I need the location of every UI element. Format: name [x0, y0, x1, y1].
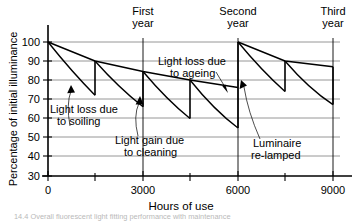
- y-tick-label-80: 80: [28, 74, 40, 86]
- annotation-leader-relamped: [244, 87, 260, 139]
- y-axis-title: Percentage of initial illuminance: [7, 32, 19, 187]
- annotation-soiling-line2: to soiling: [57, 115, 100, 127]
- annotation-relamped-line2: re-lamped: [251, 149, 301, 161]
- axes: [42, 25, 352, 176]
- period-label-third-line2: year: [322, 17, 344, 29]
- figure-container: 100 90 80 70 60 50 40 30 0 3000 6000 900…: [0, 0, 362, 222]
- x-tick-label-9000: 9000: [321, 184, 345, 196]
- annotation-cleaning-line1: Light gain due: [115, 134, 184, 146]
- annotation-ageing-line2: to ageing: [170, 67, 215, 79]
- annotation-relamped-line1: Luminaire: [253, 137, 301, 149]
- annotation-ageing-line1: Light loss due: [158, 55, 226, 67]
- arrowhead-icon-relamped: [240, 80, 247, 89]
- y-tick-labels: 100 90 80 70 60 50 40 30: [22, 36, 40, 182]
- period-label-second-line2: year: [227, 17, 249, 29]
- soiling-decay-cycle-6: [285, 61, 333, 105]
- annotation-light-loss-soiling: Light loss due to soiling: [50, 85, 118, 127]
- y-tick-label-50: 50: [28, 131, 40, 143]
- period-label-first-line2: year: [132, 17, 154, 29]
- x-axis-title: Hours of use: [148, 200, 213, 212]
- arrowhead-icon-soiling: [67, 85, 75, 93]
- period-label-second-line1: Second: [219, 5, 256, 17]
- y-tick-label-40: 40: [28, 150, 40, 162]
- y-tick-label-60: 60: [28, 112, 40, 124]
- x-tick-labels: 0 3000 6000 9000: [45, 184, 345, 196]
- period-labels: First year Second year Third year: [132, 5, 345, 29]
- x-tick-label-6000: 6000: [226, 184, 250, 196]
- x-tick-label-0: 0: [45, 184, 51, 196]
- annotation-light-loss-ageing: Light loss due to ageing: [158, 55, 228, 93]
- figure-caption: 14.4 Overall fluorescent light fitting p…: [14, 212, 354, 221]
- annotation-soiling-line1: Light loss due: [50, 103, 118, 115]
- soiling-decay-cycle-2: [95, 61, 143, 107]
- annotation-light-gain-cleaning: Light gain due to cleaning: [115, 96, 184, 158]
- y-tick-label-70: 70: [28, 93, 40, 105]
- y-tick-label-90: 90: [28, 55, 40, 67]
- x-tick-label-3000: 3000: [131, 184, 155, 196]
- annotation-luminaire-relamped: Luminaire re-lamped: [240, 80, 302, 161]
- annotation-cleaning-line2: to cleaning: [124, 146, 177, 158]
- illuminance-maintenance-chart: 100 90 80 70 60 50 40 30 0 3000 6000 900…: [0, 0, 362, 222]
- y-tick-label-100: 100: [22, 36, 40, 48]
- period-label-third-line1: Third: [320, 5, 345, 17]
- period-label-first-line1: First: [132, 5, 153, 17]
- y-tick-label-30: 30: [28, 170, 40, 182]
- annotation-leader-cleaning: [136, 103, 139, 136]
